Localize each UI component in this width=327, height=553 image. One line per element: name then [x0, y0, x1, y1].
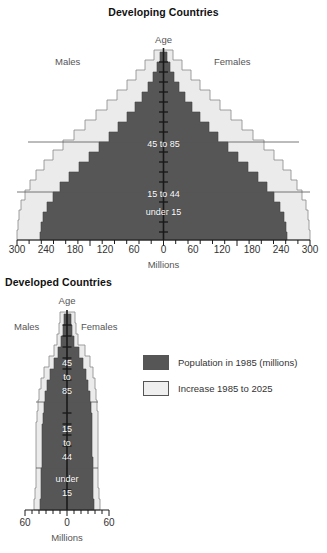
chart2-band-85: 85 — [36, 386, 98, 396]
chart2-band-45: 45 — [36, 358, 98, 368]
chart2-band-15b: 15 — [36, 488, 98, 498]
chart2-tick-0: 0 — [64, 517, 70, 528]
chart2-band-under: under — [36, 474, 98, 484]
chart2-band-15: 15 — [36, 424, 98, 434]
chart1-title: Developing Countries — [0, 6, 327, 18]
chart1-tick-300-right: 300 — [302, 244, 319, 255]
developed-countries-chart: Developed Countries Age Males Females — [0, 276, 200, 553]
legend-item-population-1985: Population in 1985 (millions) — [143, 355, 323, 370]
chart1-tick-60-right: 60 — [187, 244, 198, 255]
chart2-x-ticks — [25, 510, 109, 516]
chart2-axis-title: Millions — [0, 532, 134, 543]
chart2-band-44: 44 — [36, 452, 98, 462]
chart1-tick-180-right: 180 — [244, 244, 261, 255]
legend: Population in 1985 (millions) Increase 1… — [143, 355, 323, 407]
chart1-tick-60-left: 60 — [128, 244, 139, 255]
chart1-band-15-44: 15 to 44 — [0, 189, 327, 199]
chart1-age-axis-label: Age — [0, 34, 327, 45]
legend-swatch-increase-2025 — [143, 381, 169, 396]
chart1-tick-240-left: 240 — [38, 244, 55, 255]
chart2-title: Developed Countries — [5, 276, 112, 288]
legend-swatch-population-1985 — [143, 355, 169, 370]
chart2-tick-label-group: 60 0 60 — [0, 517, 200, 531]
chart1-tick-180-left: 180 — [67, 244, 84, 255]
chart2-plot — [0, 310, 200, 522]
chart1-tick-240-right: 240 — [273, 244, 290, 255]
developing-countries-chart: Developing Countries Age Males Females — [0, 0, 327, 268]
legend-label-population-1985: Population in 1985 (millions) — [178, 357, 297, 368]
chart1-tick-300-left: 300 — [9, 244, 26, 255]
chart2-band-to-2: to — [36, 438, 98, 448]
chart2-tick-60-left: 60 — [19, 517, 30, 528]
chart1-band-45-85: 45 to 85 — [0, 139, 327, 149]
chart1-tick-120-right: 120 — [214, 244, 231, 255]
chart2-tick-60-right: 60 — [103, 517, 114, 528]
chart2-band-to-1: to — [36, 372, 98, 382]
chart1-tick-120-left: 120 — [97, 244, 114, 255]
legend-label-increase-2025: Increase 1985 to 2025 — [178, 383, 273, 394]
chart2-age-axis-label: Age — [0, 295, 134, 306]
chart1-axis-title: Millions — [0, 259, 327, 270]
chart1-band-under-15: under 15 — [0, 207, 327, 217]
legend-item-increase-2025: Increase 1985 to 2025 — [143, 381, 323, 396]
chart1-tick-0: 0 — [161, 244, 167, 255]
chart1-tick-label-group: 300 240 180 120 60 0 60 120 180 240 300 — [0, 244, 327, 258]
